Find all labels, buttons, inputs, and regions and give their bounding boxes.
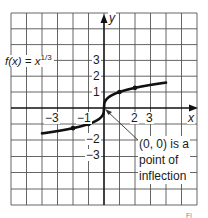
marked-point	[133, 86, 138, 91]
y-tick-label-neg3: −3	[85, 149, 101, 161]
marked-point	[71, 126, 76, 131]
x-tick-label-2: 2	[130, 112, 139, 124]
x-tick-label-3: 3	[145, 112, 154, 124]
inflection-annotation: (0, 0) is a point of inflection	[138, 136, 190, 184]
cube-root-graph: 3 2 1 −2 −3 −3 −1 2 3 x y f(x) = x1/3 (0…	[0, 0, 208, 218]
figure-caption-fragment: Fi	[186, 210, 192, 218]
y-axis-label: y	[108, 12, 116, 24]
y-tick-label-1: 1	[92, 86, 101, 98]
y-tick-label-2: 2	[92, 70, 101, 82]
marked-point	[117, 90, 122, 95]
function-exponent: 1/3	[40, 53, 51, 62]
x-axis-label: x	[187, 112, 195, 124]
x-tick-label-neg3: −3	[44, 112, 60, 124]
y-axis-arrow-icon	[101, 14, 108, 23]
y-tick-label-neg2: −2	[85, 133, 101, 145]
y-tick-label-3: 3	[92, 54, 101, 66]
x-tick-label-neg1: −1	[76, 112, 92, 124]
function-label-text: f(x) = x	[5, 55, 40, 67]
graph-canvas	[0, 0, 208, 218]
function-label: f(x) = x1/3	[3, 55, 54, 67]
